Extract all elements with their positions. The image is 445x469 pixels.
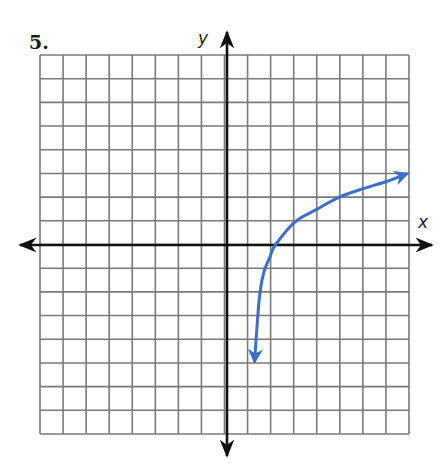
axes xyxy=(20,32,432,456)
coordinate-plane xyxy=(0,0,445,469)
